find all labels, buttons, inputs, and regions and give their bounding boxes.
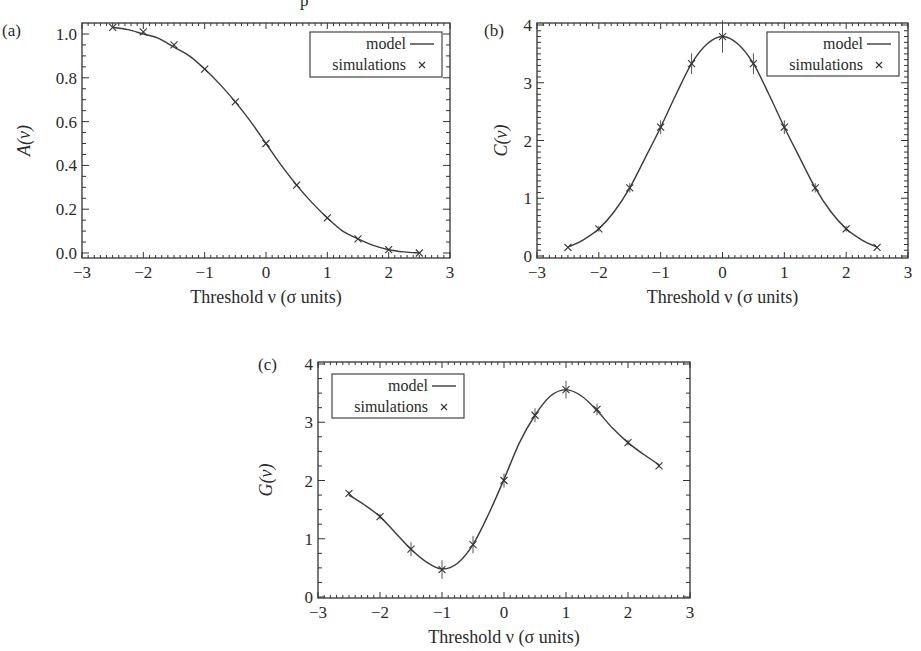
x-tick-label: 1 xyxy=(323,263,332,282)
x-tick-label: 1 xyxy=(562,603,571,622)
panel-a: −3−2−101230.00.20.40.60.81.0(a)Threshold… xyxy=(2,21,454,308)
simulation-point xyxy=(470,536,477,553)
legend: modelsimulations xyxy=(767,32,899,76)
simulation-point xyxy=(201,66,208,73)
simulation-point xyxy=(564,244,571,251)
y-axis-title: G(ν) xyxy=(256,464,277,497)
simulation-point xyxy=(232,98,239,105)
simulation-point xyxy=(355,235,362,242)
x-tick-label: 0 xyxy=(718,263,727,282)
simulation-point xyxy=(595,225,602,232)
x-tick-label: −2 xyxy=(590,263,608,282)
panel-label: (b) xyxy=(484,21,504,40)
x-tick-label: 3 xyxy=(446,263,455,282)
simulation-point xyxy=(263,140,270,147)
simulation-point xyxy=(293,182,300,189)
x-tick-label: 0 xyxy=(500,603,509,622)
simulation-point xyxy=(408,542,415,556)
legend-model-label: model xyxy=(823,35,864,52)
panel-label: (a) xyxy=(2,21,21,40)
panel-c: −3−2−1012301234(c)Threshold ν (σ units)G… xyxy=(256,355,694,648)
y-tick-label: 2 xyxy=(524,132,533,151)
x-axis-title: Threshold ν (σ units) xyxy=(190,287,341,308)
legend-simulations-label: simulations xyxy=(332,56,406,73)
legend-model-label: model xyxy=(366,35,407,52)
x-tick-label: 3 xyxy=(904,263,913,282)
x-tick-label: −1 xyxy=(196,263,214,282)
y-tick-label: 0.2 xyxy=(56,200,77,219)
y-tick-label: 3 xyxy=(524,74,533,93)
x-tick-label: 0 xyxy=(262,263,271,282)
y-axis-title: C(ν) xyxy=(491,125,512,157)
y-tick-label: 0.8 xyxy=(56,69,77,88)
y-tick-label: 2 xyxy=(305,472,314,491)
x-axis-title: Threshold ν (σ units) xyxy=(428,627,579,648)
simulation-point xyxy=(874,244,881,251)
figure: p −3−2−101230.00.20.40.60.81.0(a)Thresho… xyxy=(0,0,921,651)
x-tick-label: 3 xyxy=(686,603,695,622)
y-tick-label: 1.0 xyxy=(56,25,77,44)
x-tick-label: −2 xyxy=(134,263,152,282)
panel-b: −3−2−1012301234(b)Threshold ν (σ units)C… xyxy=(484,16,912,308)
legend: modelsimulations xyxy=(310,32,442,77)
x-axis-title: Threshold ν (σ units) xyxy=(647,287,798,308)
x-tick-label: −3 xyxy=(73,263,91,282)
y-tick-label: 1 xyxy=(305,530,314,549)
y-tick-label: 4 xyxy=(305,355,314,374)
simulation-point xyxy=(688,53,695,74)
legend-model-label: model xyxy=(388,377,429,394)
x-tick-label: 2 xyxy=(624,603,633,622)
y-tick-label: 0.6 xyxy=(56,113,77,132)
legend-simulations-label: simulations xyxy=(354,398,428,415)
legend: modelsimulations xyxy=(332,374,464,418)
top-text-fragment: p xyxy=(300,0,309,10)
x-tick-label: −1 xyxy=(433,603,451,622)
figure-canvas: p −3−2−101230.00.20.40.60.81.0(a)Thresho… xyxy=(0,0,921,651)
x-tick-label: −1 xyxy=(652,263,670,282)
simulation-point xyxy=(750,53,757,74)
simulation-point xyxy=(324,214,331,221)
simulation-point xyxy=(843,225,850,232)
y-tick-label: 0.0 xyxy=(56,244,77,263)
y-tick-label: 0 xyxy=(305,588,314,607)
legend-simulations-label: simulations xyxy=(789,56,863,73)
simulation-point xyxy=(377,513,384,520)
x-tick-label: 2 xyxy=(842,263,851,282)
y-tick-label: 3 xyxy=(305,413,314,432)
y-tick-label: 1 xyxy=(524,189,533,208)
x-tick-label: 2 xyxy=(384,263,393,282)
y-tick-label: 0.4 xyxy=(56,156,78,175)
simulation-point xyxy=(625,439,632,446)
x-tick-label: 1 xyxy=(780,263,789,282)
simulation-point xyxy=(656,462,663,469)
y-axis-title: A(ν) xyxy=(14,125,35,157)
y-tick-label: 4 xyxy=(524,16,533,35)
y-tick-label: 0 xyxy=(524,247,533,266)
panel-label: (c) xyxy=(258,355,277,374)
x-tick-label: −2 xyxy=(371,603,389,622)
